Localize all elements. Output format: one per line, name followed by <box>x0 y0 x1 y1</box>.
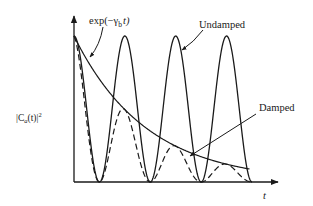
rabi-oscillation-diagram: exp(−γbt) Undamped Damped |Ca(t)|2 t <box>0 0 313 206</box>
x-axis-label: t <box>263 190 267 201</box>
damped-leader-arrow <box>190 114 256 156</box>
y-axis-label: |Ca(t)|2 <box>16 111 42 124</box>
exp-leader-arrow <box>90 27 103 57</box>
undamped-label: Undamped <box>199 19 246 30</box>
axes <box>74 16 278 182</box>
damped-label: Damped <box>259 102 295 113</box>
undamped-leader-arrow <box>182 30 203 50</box>
exp-label: exp(−γbt) <box>89 15 130 29</box>
exp-envelope-curve <box>74 36 249 169</box>
